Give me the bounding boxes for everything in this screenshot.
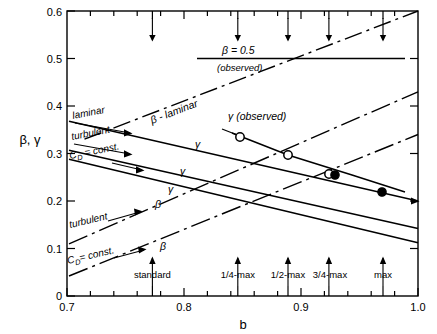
top-arrow-standard — [149, 18, 155, 42]
gamma-observed-label: γ (observed) — [228, 110, 286, 122]
series-gamma-cd-const — [69, 159, 418, 243]
data-point-marker — [378, 188, 386, 196]
y-tick-label-2: 0.2 — [47, 195, 62, 207]
top-arrow-max — [380, 18, 386, 42]
chart-svg: 0 0.1 0.2 0.3 0.4 0.5 0.6 — [0, 0, 437, 334]
x-tick-label-1: 0.8 — [176, 301, 191, 313]
y-tick-label-1: 0.1 — [47, 243, 62, 255]
bottom-label-half-max: 1/2-max — [271, 269, 306, 280]
y-axis-title: β, γ — [19, 132, 41, 147]
gamma-cd-const-label: γ — [168, 183, 174, 195]
y-tick-label-5: 0.5 — [47, 53, 62, 65]
bottom-label-three-quarter-max: 3/4-max — [313, 269, 348, 280]
x-tick-label-3: 1.0 — [410, 301, 425, 313]
x-axis-ticks-bottom — [67, 286, 418, 296]
x-axis-ticks-top — [90, 11, 394, 19]
annotation-cd-upper-tail: = const. — [81, 140, 120, 158]
bottom-arrow-markers — [149, 257, 386, 287]
annotation-cd-const-lower: CD= const. — [66, 244, 147, 268]
y-tick-label-4: 0.4 — [47, 100, 62, 112]
x-tick-label-2: 0.9 — [293, 301, 308, 313]
y-tick-label-3: 0.3 — [47, 148, 62, 160]
beta-turbulent-label: β — [154, 198, 161, 210]
x-tick-labels: 0.7 0.8 0.9 1.0 — [59, 301, 425, 313]
data-point-marker — [284, 151, 292, 159]
y-tick-labels: 0 0.1 0.2 0.3 0.4 0.5 0.6 — [47, 6, 62, 302]
data-point-marker — [331, 171, 339, 179]
bottom-label-max: max — [374, 269, 392, 280]
top-arrow-markers — [149, 18, 386, 42]
bottom-label-quarter-max: 1/4-max — [221, 269, 256, 280]
series-gamma-laminar — [69, 121, 420, 204]
gamma-turbulent-label: γ — [180, 165, 186, 177]
annotation-laminar-text: laminar — [71, 104, 106, 121]
annotation-turbulent-lower-text: turbulent — [68, 210, 110, 230]
series-beta-cd-const — [69, 135, 418, 277]
annotation-cd-lower-tail: = const. — [78, 244, 115, 263]
top-arrow-half-max — [285, 18, 291, 42]
top-arrow-three-quarter-max — [326, 18, 332, 42]
x-axis-title: b — [239, 317, 246, 332]
beta-observed-label: β = 0.5 — [221, 44, 255, 56]
x-tick-label-0: 0.7 — [59, 301, 74, 313]
y-tick-label-6: 0.6 — [47, 6, 62, 18]
beta-cd-const-label: β — [159, 240, 166, 252]
gamma-laminar-label: γ — [195, 138, 201, 150]
beta-observed-note: (observed) — [217, 62, 262, 73]
chart-figure: 0 0.1 0.2 0.3 0.4 0.5 0.6 — [0, 0, 437, 334]
data-point-marker — [236, 133, 244, 141]
top-arrow-quarter-max — [235, 18, 241, 42]
bottom-arrow-labels: standard 1/4-max 1/2-max 3/4-max max — [134, 269, 392, 280]
bottom-label-standard: standard — [134, 269, 171, 280]
beta-laminar-label: β - laminar — [147, 97, 199, 127]
annotation-turbulent-upper-text: turbulent — [70, 124, 111, 142]
annotation-turbulent-lower: turbulent — [68, 209, 143, 230]
